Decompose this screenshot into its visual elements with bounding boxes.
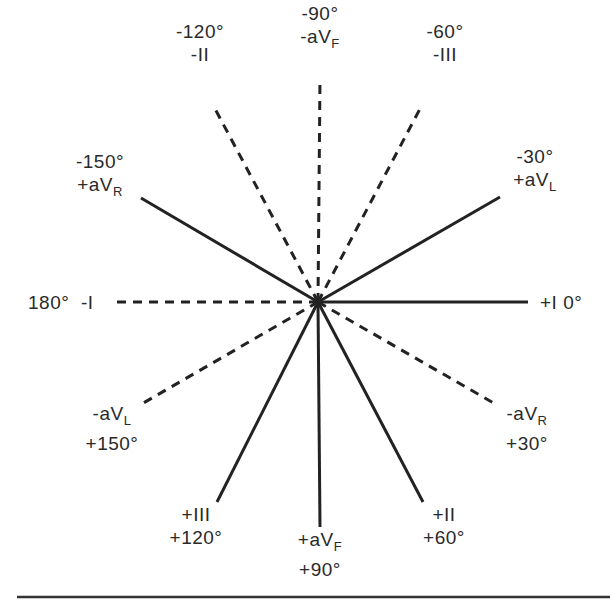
label-minus-150: -150° +aVR (76, 150, 124, 203)
lead-text: -aVL (86, 402, 139, 432)
label-0: +I 0° (540, 291, 582, 314)
angle-text: -60° (426, 20, 463, 43)
angle-text: +120° (170, 526, 223, 549)
angle-text: -150° (76, 150, 124, 173)
label-plus-120: +III +120° (170, 503, 223, 549)
angle-text: +90° (298, 558, 342, 581)
label-plus-60: +II +60° (423, 503, 465, 549)
label-plus-30: -aVR +30° (506, 402, 548, 455)
label-plus-150: -aVL +150° (86, 402, 139, 455)
axis-plus-aVL (318, 197, 500, 302)
angle-text: -30° (513, 145, 557, 168)
lead-text: -III (426, 43, 463, 66)
label-plus-90: +aVF +90° (298, 528, 342, 581)
lead-text: -I (81, 292, 94, 313)
label-minus-30: -30° +aVL (513, 145, 557, 198)
angle-text: -90° (300, 2, 340, 25)
lead-text: +II (423, 503, 465, 526)
lead-text: +aVR (76, 173, 124, 203)
angle-text: +30° (506, 432, 548, 455)
label-minus-90: -90° -aVF (300, 2, 340, 55)
angle-text: 180° (28, 292, 69, 313)
angle-text: -120° (176, 20, 224, 43)
axis-plus-III (217, 302, 318, 502)
lead-text: -II (176, 43, 224, 66)
angle-text: +60° (423, 526, 465, 549)
label-minus-120: -120° -II (176, 20, 224, 66)
lead-text: +III (170, 503, 223, 526)
lead-axes (113, 78, 528, 527)
axis-plus-aVR (141, 198, 318, 302)
lead-text: +aVL (513, 168, 557, 198)
lead-text: -aVF (300, 25, 340, 55)
label-minus-60: -60° -III (426, 20, 463, 66)
label-180: 180° -I (28, 291, 93, 314)
lead-text: +I (540, 292, 557, 313)
axis-plus-II (318, 302, 423, 502)
angle-text: 0° (563, 292, 582, 313)
lead-text: -aVR (506, 402, 548, 432)
lead-text: +aVF (298, 528, 342, 558)
axis-plus-aVF (318, 302, 320, 527)
axis-minus-aVF (318, 78, 320, 302)
angle-text: +150° (86, 432, 139, 455)
